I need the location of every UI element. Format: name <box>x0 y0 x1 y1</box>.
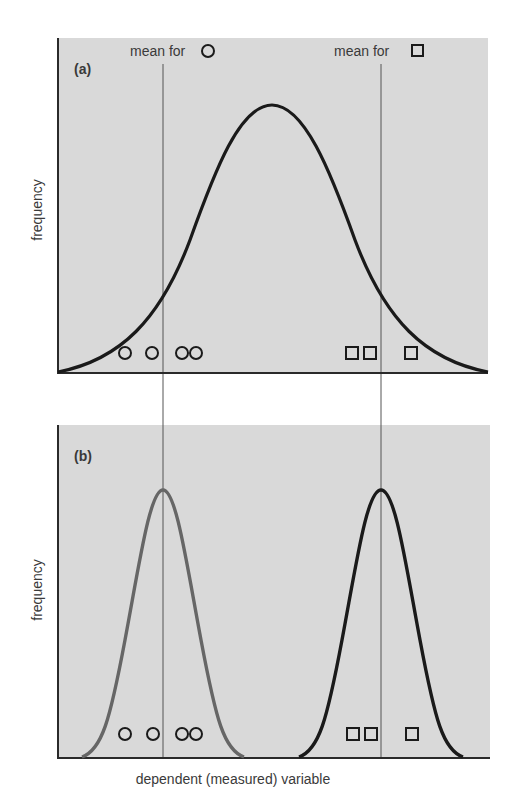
panel-a-y-label: frequency <box>29 179 45 240</box>
figure: (a) mean for mean for frequency (b) freq… <box>0 0 516 804</box>
panel-a-label: (a) <box>74 61 91 77</box>
panel-a-background <box>58 38 488 373</box>
panel-b-background <box>58 425 490 758</box>
panel-b-y-label: frequency <box>29 559 45 620</box>
mean-circle-label: mean for <box>130 43 186 59</box>
mean-square-label: mean for <box>334 43 390 59</box>
x-axis-label: dependent (measured) variable <box>136 771 331 787</box>
panel-b-label: (b) <box>74 448 92 464</box>
